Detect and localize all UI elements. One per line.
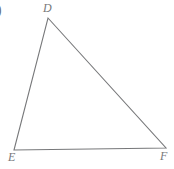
vertex-label-f: F xyxy=(160,150,167,162)
vertex-label-e: E xyxy=(8,151,15,163)
vertex-label-d: D xyxy=(43,2,52,14)
figure-canvas: ) D E F xyxy=(0,0,174,169)
triangle-outline xyxy=(14,18,166,150)
triangle-figure xyxy=(0,0,174,169)
